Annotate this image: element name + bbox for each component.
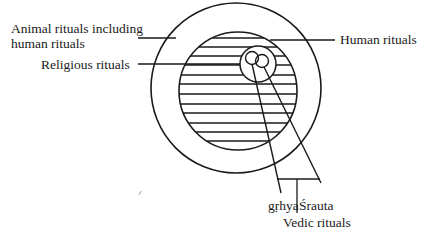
- label-grhya: gṛhya: [268, 198, 299, 213]
- label-human-rituals: Human rituals: [340, 32, 417, 47]
- small-circle: [240, 46, 276, 82]
- outer-circle: [151, 3, 321, 173]
- label-animal-rituals: Animal rituals including human rituals: [11, 21, 143, 51]
- stray-mark: [139, 191, 141, 195]
- label-srauta: Śrauta: [299, 198, 334, 213]
- label-vedic-rituals: Vedic rituals: [283, 215, 351, 230]
- inner-hatched-circle: [170, 32, 310, 150]
- label-animal-line2: human rituals: [11, 36, 143, 51]
- label-animal-line1: Animal rituals including: [11, 21, 143, 36]
- label-religious-rituals: Religious rituals: [41, 57, 130, 72]
